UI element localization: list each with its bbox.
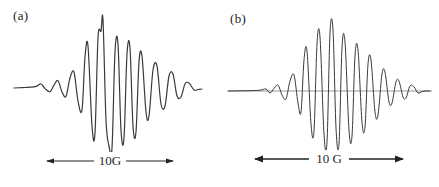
esr-spectra-figure: (a) 10G (b) 10 G [0,0,439,187]
panel-a-scale-bar: 10G [45,152,175,174]
spectrum-curve [228,19,430,152]
panel-b-scale-bar: 10 G [253,150,405,172]
panel-a: (a) 10G [0,0,220,187]
spectrum-curve [14,15,202,155]
panel-a-scale-label: 10G [45,152,175,170]
panel-b: (b) 10 G [220,0,439,187]
panel-b-scale-label: 10 G [253,150,405,168]
